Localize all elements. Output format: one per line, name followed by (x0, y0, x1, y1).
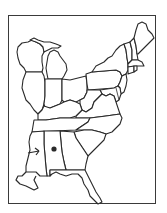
state-florida (50, 170, 102, 204)
state-louisiana-partial (16, 172, 38, 190)
state-wisconsin (17, 40, 44, 72)
state-illinois (22, 72, 45, 114)
state-rhode-island (134, 66, 137, 72)
eastern-us-map (0, 0, 167, 213)
state-maine (134, 22, 154, 54)
state-indiana (44, 79, 62, 108)
location-dot-marker (51, 146, 56, 151)
state-connecticut (128, 66, 134, 74)
state-michigan-lower (46, 50, 67, 79)
